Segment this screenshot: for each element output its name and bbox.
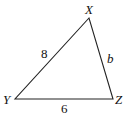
vertex-label-y: Y [3, 92, 12, 107]
vertex-label-x: X [84, 2, 94, 17]
side-label-xz: b [107, 51, 114, 66]
vertex-label-z: Z [115, 92, 123, 107]
side-label-xy: 8 [41, 46, 48, 61]
triangle-xyz [15, 18, 113, 99]
triangle-diagram: X Y Z 8 b 6 [0, 0, 129, 114]
side-label-yz: 6 [61, 101, 68, 114]
